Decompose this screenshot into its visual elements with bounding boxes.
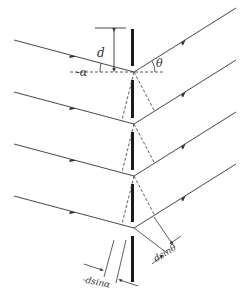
slit-bar (131, 236, 134, 282)
incident-ray (14, 196, 134, 228)
label-dsin-alpha: -dsinα (82, 274, 112, 290)
label-alpha: -α (76, 66, 88, 79)
incident-rays (14, 40, 134, 228)
incident-ray (14, 144, 134, 176)
theta-arc (152, 61, 155, 72)
incident-ray (14, 92, 134, 124)
grating-diagram: d -α θ -dsinα dsinθ (0, 0, 248, 297)
label-dsin-theta: dsinθ (152, 242, 179, 264)
slit-bar (131, 132, 134, 170)
diffracted-arrow-icons (181, 39, 186, 202)
label-theta: θ (156, 57, 163, 70)
slit-bar (131, 184, 134, 222)
alpha-arc (100, 63, 101, 72)
slit-bar (131, 29, 134, 66)
incident-arrow-icons (69, 55, 76, 214)
path-difference-lines (122, 72, 155, 224)
slit-bar (131, 80, 134, 118)
slit-bars (131, 29, 134, 282)
incident-ray (14, 40, 134, 72)
label-d: d (97, 46, 105, 60)
